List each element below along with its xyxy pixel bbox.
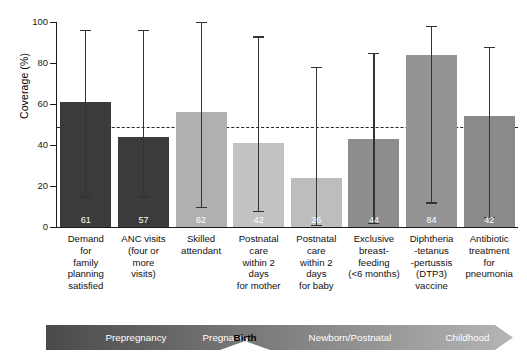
error-bar-cap-upper — [196, 22, 207, 23]
coverage-bar-chart: Coverage (%) 100806040200 61576242264484… — [0, 0, 527, 364]
category-label-line: (<6 months) — [345, 268, 403, 280]
error-bar-line — [85, 30, 86, 196]
category-label: Antibiotictreatmentforpneumonia — [460, 233, 518, 280]
bar-value-label: 26 — [291, 215, 342, 225]
y-tick-label-80: 80 — [18, 57, 48, 68]
bar-group: 62 — [176, 22, 227, 227]
category-label-line: Exclusive — [345, 233, 403, 245]
lifecycle-timeline: PrepregnancyPregnancyBirthNewborn/Postna… — [46, 325, 513, 350]
bar-value-label: 61 — [60, 215, 111, 225]
category-label-line: pneumonia — [460, 268, 518, 280]
category-label-line: Antibiotic — [460, 233, 518, 245]
category-label-line: breast- — [345, 245, 403, 257]
y-tick-100 — [50, 22, 57, 23]
category-label: Diphtheria-tetanus-pertussis(DTP3)vaccin… — [403, 233, 461, 292]
category-label-line: satisfied — [57, 280, 115, 292]
category-label-line: for — [460, 257, 518, 269]
category-label-line: for baby — [288, 280, 346, 292]
y-tick-0 — [50, 227, 57, 228]
category-label-line: days — [288, 268, 346, 280]
bar-group: 42 — [233, 22, 284, 227]
category-label-line: ANC visits — [115, 233, 173, 245]
category-label-line: (four or — [115, 245, 173, 257]
category-label-line: -pertussis — [403, 257, 461, 269]
y-tick-80 — [50, 63, 57, 64]
category-label: Demandforfamilyplanningsatisfied — [57, 233, 115, 292]
bar-value-label: 42 — [464, 215, 515, 225]
error-bar-line — [201, 22, 202, 207]
error-bar-cap-upper — [253, 36, 264, 37]
error-bar-cap-lower — [311, 225, 322, 226]
y-tick-20 — [50, 186, 57, 187]
category-label-line: care — [230, 245, 288, 257]
error-bar-cap-lower — [80, 196, 91, 197]
y-tick-label-0: 0 — [18, 221, 48, 232]
bar-group: 57 — [118, 22, 169, 227]
category-label: ANC visits(four ormorevisits) — [115, 233, 173, 280]
y-tick-40 — [50, 145, 57, 146]
bar-group: 26 — [291, 22, 342, 227]
bar-group: 61 — [60, 22, 111, 227]
error-bar-line — [489, 47, 490, 217]
y-tick-label-40: 40 — [18, 139, 48, 150]
category-label: Postnatalcarewithin 2daysfor mother — [230, 233, 288, 292]
category-label-line: attendant — [172, 245, 230, 257]
y-tick-60 — [50, 104, 57, 105]
category-label: Postnatalcarewithin 2daysfor baby — [288, 233, 346, 292]
category-label-line: Demand — [57, 233, 115, 245]
bar-group: 84 — [406, 22, 457, 227]
bar-value-label: 57 — [118, 215, 169, 225]
category-label-line: within 2 — [288, 257, 346, 269]
category-label: Exclusivebreast-feeding(<6 months) — [345, 233, 403, 280]
category-label-line: care — [288, 245, 346, 257]
error-bar-line — [373, 53, 374, 223]
category-label-line: treatment — [460, 245, 518, 257]
error-bar-line — [143, 30, 144, 196]
category-label-line: vaccine — [403, 280, 461, 292]
category-label-line: planning — [57, 268, 115, 280]
category-label-line: for — [57, 245, 115, 257]
category-label-line: family — [57, 257, 115, 269]
y-axis-title: Coverage (%) — [18, 16, 30, 156]
bar-group: 42 — [464, 22, 515, 227]
plot-area: 6157624226448442 — [57, 22, 518, 227]
category-label-line: for mother — [230, 280, 288, 292]
error-bar-cap-upper — [311, 67, 322, 68]
y-tick-label-20: 20 — [18, 180, 48, 191]
category-label-line: days — [230, 268, 288, 280]
bar-value-label: 62 — [176, 215, 227, 225]
y-tick-label-100: 100 — [18, 16, 48, 27]
error-bar-line — [431, 26, 432, 202]
y-tick-label-60: 60 — [18, 98, 48, 109]
category-label-line: visits) — [115, 268, 173, 280]
error-bar-cap-lower — [426, 202, 437, 203]
error-bar-line — [258, 36, 259, 210]
category-label-line: feeding — [345, 257, 403, 269]
bar-value-label: 44 — [348, 215, 399, 225]
category-label-line: Postnatal — [288, 233, 346, 245]
error-bar-cap-upper — [484, 47, 495, 48]
bar-value-label: 84 — [406, 215, 457, 225]
category-label-line: Diphtheria — [403, 233, 461, 245]
timeline-arrow-shape — [46, 325, 513, 350]
category-label-line: (DTP3) — [403, 268, 461, 280]
error-bar-cap-lower — [196, 207, 207, 208]
category-label-line: -tetanus — [403, 245, 461, 257]
category-label-line: Skilled — [172, 233, 230, 245]
category-label-line: Postnatal — [230, 233, 288, 245]
category-label-line: within 2 — [230, 257, 288, 269]
error-bar-cap-upper — [80, 30, 91, 31]
error-bar-cap-upper — [426, 26, 437, 27]
bar-group: 44 — [348, 22, 399, 227]
x-axis-line — [56, 227, 518, 228]
category-label: Skilledattendant — [172, 233, 230, 257]
category-label-line: more — [115, 257, 173, 269]
bar-value-label: 42 — [233, 215, 284, 225]
error-bar-cap-lower — [253, 211, 264, 212]
error-bar-line — [316, 67, 317, 225]
error-bar-cap-upper — [138, 30, 149, 31]
error-bar-cap-lower — [138, 196, 149, 197]
error-bar-cap-upper — [368, 53, 379, 54]
